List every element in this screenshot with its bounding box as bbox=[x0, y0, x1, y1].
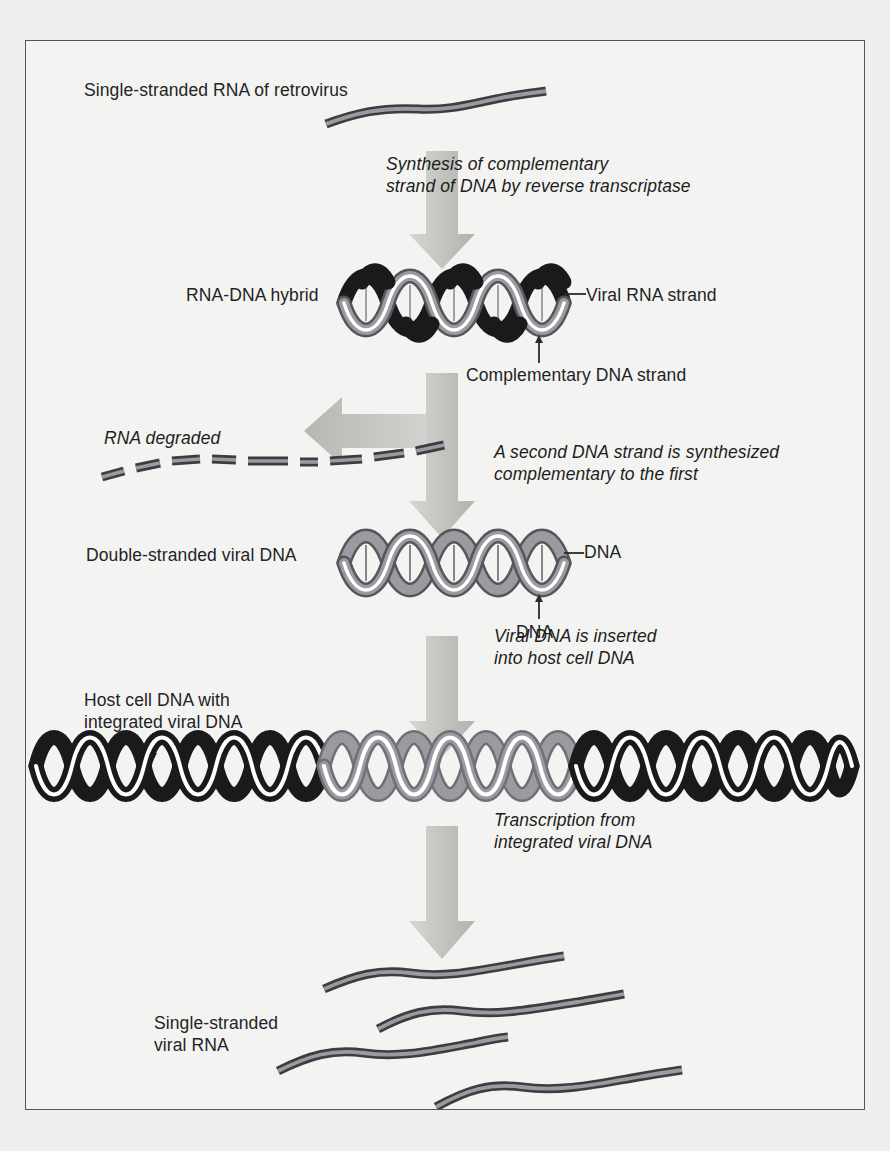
step-reverse-transcription-line2: strand of DNA by reverse transcriptase bbox=[386, 175, 691, 198]
label-ss-viral-rna-line2: viral RNA bbox=[154, 1034, 229, 1057]
ss-viral-rna-strand-1 bbox=[324, 956, 564, 989]
label-ss-rna-retrovirus: Single-stranded RNA of retrovirus bbox=[84, 79, 348, 102]
figure-panel: Single-stranded RNA of retrovirus Synthe… bbox=[25, 40, 865, 1110]
ss-viral-rna-strands bbox=[278, 956, 682, 1107]
label-host-cell-dna-line2: integrated viral DNA bbox=[84, 711, 243, 734]
step-second-dna-strand-line2: complementary to the first bbox=[494, 463, 698, 486]
leader-host-cell-dna bbox=[149, 733, 157, 761]
step-integration-line2: into host cell DNA bbox=[494, 647, 635, 670]
label-ss-viral-rna-line1: Single-stranded bbox=[154, 1012, 278, 1035]
ss-viral-rna-strand-2 bbox=[378, 994, 624, 1029]
step-second-dna-strand-line1: A second DNA strand is synthesized bbox=[494, 441, 779, 464]
helix-double-stranded-viral-dna bbox=[344, 536, 564, 590]
diagram-graphics bbox=[26, 41, 865, 1110]
leader-complementary-dna-strand bbox=[535, 335, 543, 363]
label-host-cell-dna-line1: Host cell DNA with bbox=[84, 689, 230, 712]
label-rna-dna-hybrid: RNA-DNA hybrid bbox=[186, 284, 319, 307]
ss-viral-rna-strand-3 bbox=[278, 1037, 508, 1071]
arrow-second-dna-strand bbox=[304, 373, 475, 538]
label-rna-degraded: RNA degraded bbox=[104, 427, 220, 450]
ss-viral-rna-strand-4 bbox=[436, 1070, 682, 1107]
label-dna-top: DNA bbox=[584, 541, 621, 564]
label-double-stranded-viral-dna: Double-stranded viral DNA bbox=[86, 544, 297, 567]
label-complementary-dna-strand: Complementary DNA strand bbox=[466, 364, 686, 387]
step-transcription-line1: Transcription from bbox=[494, 809, 636, 832]
helix-rna-dna-hybrid bbox=[344, 271, 564, 336]
helix-integrated-host-dna bbox=[36, 738, 852, 795]
label-viral-rna-strand: Viral RNA strand bbox=[586, 284, 717, 307]
degraded-rna-fragments bbox=[102, 445, 444, 477]
step-reverse-transcription-line1: Synthesis of complementary bbox=[386, 153, 608, 176]
step-integration-line1: Viral DNA is inserted bbox=[494, 625, 657, 648]
arrow-integration bbox=[409, 636, 475, 757]
ss-rna-strand-top bbox=[326, 91, 546, 124]
leader-dna-bottom bbox=[535, 594, 543, 619]
step-transcription-line2: integrated viral DNA bbox=[494, 831, 653, 854]
arrow-transcription bbox=[409, 826, 475, 959]
